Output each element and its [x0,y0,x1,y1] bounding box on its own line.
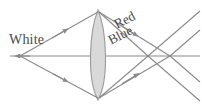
lower-red-diverging-ray [170,30,200,56]
upper-blue-diverging-ray [148,56,200,101]
biconvex-lens [90,10,105,100]
lower-red-refracted-ray [99,56,170,98]
lower-incident-ray-arrow [52,73,66,81]
lower-blue-diverging-ray [148,11,200,56]
optics-ray-diagram: White Red Blue [0,0,202,106]
white-light-source-point [18,54,21,57]
label-white: White [9,33,44,47]
lower-blue-refracted-ray [99,56,148,98]
upper-incident-ray-arrow [52,30,66,38]
upper-red-diverging-ray [170,56,200,82]
ray-diagram-canvas [0,0,202,106]
